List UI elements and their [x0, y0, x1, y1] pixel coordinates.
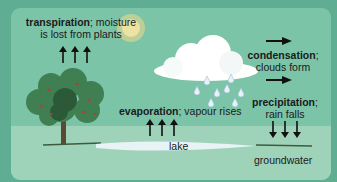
lake-label: lake	[169, 140, 188, 152]
transpiration-arrows	[57, 46, 97, 64]
precipitation-label: precipitation; rain falls	[245, 96, 325, 120]
groundwater-line	[256, 142, 316, 148]
groundwater-label: groundwater	[254, 154, 312, 166]
transpiration-term: transpiration	[26, 16, 90, 28]
condensation-arrow-top	[266, 36, 292, 46]
evaporation-arrows	[144, 119, 184, 137]
condensation-arrow-bottom	[266, 75, 292, 85]
transpiration-label: transpiration; moisture is lost from pla…	[21, 16, 141, 40]
evaporation-label: evaporation; vapour rises	[119, 105, 249, 117]
water-cycle-diagram: transpiration; moisture is lost from pla…	[11, 8, 331, 180]
precipitation-arrows	[267, 121, 307, 139]
condensation-label: condensation; clouds form	[243, 49, 323, 73]
